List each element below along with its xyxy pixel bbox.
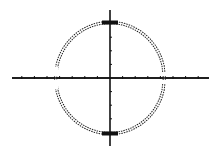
left-lower-gap	[50, 80, 58, 89]
top-intercept-mark	[102, 21, 118, 25]
right-upper-gap	[162, 72, 170, 76]
left-upper-gap	[50, 67, 58, 76]
circle-graph	[0, 0, 218, 158]
bottom-intercept-mark	[102, 131, 118, 135]
right-lower-gap	[162, 80, 170, 84]
